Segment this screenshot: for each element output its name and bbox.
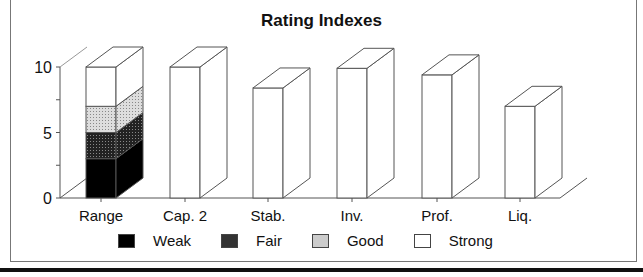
divider	[0, 268, 643, 272]
good-swatch-icon	[312, 234, 329, 248]
svg-text:5: 5	[43, 125, 52, 142]
legend-item-good: Good	[312, 232, 384, 249]
svg-text:10: 10	[34, 59, 52, 76]
legend-item-strong: Strong	[414, 232, 493, 249]
legend-label: Strong	[449, 232, 493, 249]
strong-swatch-icon	[414, 234, 431, 248]
x-axis-label: Liq.	[508, 207, 532, 224]
x-axis-label: Prof.	[421, 207, 453, 224]
x-axis-label: Cap. 2	[163, 207, 207, 224]
legend: Weak Fair Good Strong	[118, 232, 523, 249]
fair-swatch-icon	[221, 234, 238, 248]
x-axis-label: Range	[79, 207, 123, 224]
svg-text:0: 0	[43, 190, 52, 207]
bars	[86, 47, 562, 198]
legend-label: Fair	[256, 232, 282, 249]
legend-item-fair: Fair	[221, 232, 282, 249]
weak-swatch-icon	[118, 234, 135, 248]
x-axis-label: Inv.	[340, 207, 363, 224]
legend-label: Good	[347, 232, 384, 249]
x-axis-label: Stab.	[250, 207, 285, 224]
legend-item-weak: Weak	[118, 232, 191, 249]
legend-label: Weak	[153, 232, 191, 249]
